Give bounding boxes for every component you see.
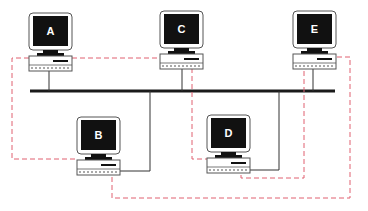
- computer-e[interactable]: E: [293, 11, 336, 69]
- ring-links: [12, 57, 350, 198]
- computer-a[interactable]: A: [29, 13, 72, 71]
- node-label-d: D: [225, 127, 233, 139]
- computer-d[interactable]: D: [207, 115, 250, 173]
- node-label-b: B: [95, 129, 103, 141]
- node-label-e: E: [311, 23, 318, 35]
- network-diagram: A C E B D: [0, 0, 368, 211]
- computer-c[interactable]: C: [160, 11, 203, 69]
- link-c-d: [192, 68, 207, 159]
- computer-b[interactable]: B: [77, 117, 120, 175]
- node-label-a: A: [47, 25, 55, 37]
- link-a-b: [12, 58, 77, 159]
- node-label-c: C: [178, 23, 186, 35]
